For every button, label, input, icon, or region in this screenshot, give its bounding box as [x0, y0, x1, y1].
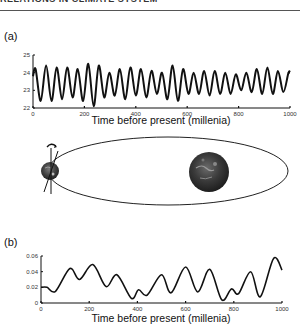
y-tick-label: 0.02: [26, 284, 38, 290]
x-tick-label: 0: [39, 306, 43, 312]
x-tick-label: 200: [79, 111, 90, 117]
y-tick-label: 24: [23, 70, 30, 76]
y-tick-label: 0.06: [26, 253, 38, 259]
x-tick-label: 800: [234, 111, 245, 117]
y-tick-label: 25: [23, 52, 30, 58]
y-tick-label: 22: [23, 105, 30, 111]
chart-b-series-line: [41, 258, 282, 301]
y-tick-label: 0.04: [26, 269, 38, 275]
chart-b-x-axis-title: Time before present (millenia): [91, 312, 230, 324]
figure-canvas: 22232425 02004006008001000 Time before p…: [0, 0, 307, 333]
orbit-ellipse: [48, 137, 288, 205]
x-tick-label: 1000: [275, 306, 289, 312]
chart-a-x-axis-title: Time before present (millenia): [91, 114, 230, 126]
chart-a: 22232425 02004006008001000 Time before p…: [23, 52, 297, 126]
x-tick-label: 0: [31, 111, 35, 117]
y-tick-label: 23: [23, 87, 30, 93]
sun-globe: [189, 152, 229, 192]
y-tick-label: 0: [35, 300, 39, 306]
chart-a-series-line: [33, 64, 290, 106]
earth-globe: [41, 162, 59, 180]
x-tick-label: 1000: [283, 111, 297, 117]
chart-b: 00.020.040.06 02004006008001000 Time bef…: [26, 253, 289, 324]
orbit-diagram: [41, 137, 288, 205]
